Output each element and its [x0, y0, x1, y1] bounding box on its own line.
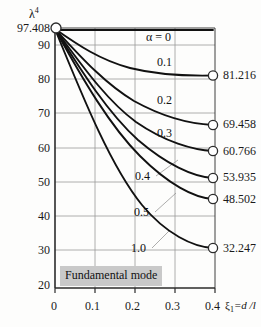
- end-label-48.502: 48.502: [223, 193, 256, 205]
- y-tick-70: 70: [4, 107, 50, 119]
- curve-label-0.2: 0.2: [157, 94, 172, 106]
- y-axis-title: λ4: [29, 7, 39, 20]
- y-tick-97408: 97.408: [4, 22, 50, 34]
- end-label-53.935: 53.935: [223, 171, 256, 183]
- curve-alpha-0.3: [55, 29, 213, 151]
- y-tick-40: 40: [4, 210, 50, 222]
- x-tick-0: 0: [51, 300, 57, 312]
- curve-label-0.3: 0.3: [157, 127, 172, 139]
- endpoint-32.247: [208, 243, 217, 252]
- curve-label-0.5: 0.5: [134, 206, 149, 218]
- y-tick-20: 20: [4, 279, 50, 291]
- origin-marker: [51, 23, 61, 33]
- curve-alpha-0.4: [55, 29, 213, 178]
- end-label-81.216: 81.216: [223, 69, 256, 81]
- end-label-69.458: 69.458: [223, 118, 256, 130]
- curve-label-1.0: 1.0: [131, 242, 146, 254]
- end-label-60.766: 60.766: [223, 145, 256, 157]
- curve-alpha-0.1: [55, 29, 213, 76]
- x-axis-title-rest: =d /l: [234, 299, 256, 311]
- chart-figure: λ4 97.408 90 80 70 60 50 40 30 20 0 0.1 …: [0, 0, 261, 327]
- curve-label-0.4: 0.4: [135, 170, 150, 182]
- curve-label-0.1: 0.1: [157, 56, 172, 68]
- y-axis-title-exponent: 4: [35, 6, 39, 15]
- y-tick-50: 50: [4, 176, 50, 188]
- endpoint-48.502: [208, 194, 217, 203]
- x-axis-title: ξ1=d /l: [225, 300, 256, 314]
- y-tick-80: 80: [4, 73, 50, 85]
- fundamental-mode-annotation: Fundamental mode: [60, 266, 162, 286]
- curve-label-alpha-0: α = 0: [146, 31, 171, 43]
- x-tick-0.2: 0.2: [125, 300, 140, 312]
- endpoint-53.935: [208, 173, 217, 182]
- end-label-32.247: 32.247: [223, 242, 256, 254]
- endpoint-69.458: [208, 120, 217, 129]
- endpoint-60.766: [208, 146, 217, 155]
- curve-alpha-0.2: [55, 29, 213, 125]
- y-tick-60: 60: [4, 142, 50, 154]
- y-tick-30: 30: [4, 244, 50, 256]
- x-tick-0.3: 0.3: [165, 300, 180, 312]
- x-tick-0.1: 0.1: [85, 300, 100, 312]
- y-tick-90: 90: [4, 39, 50, 51]
- x-tick-0.4: 0.4: [205, 300, 220, 312]
- endpoint-81.216: [208, 71, 217, 80]
